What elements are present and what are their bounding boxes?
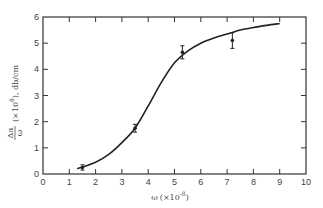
x-tick-label: 5 [172,177,177,187]
fit-curve [77,24,280,169]
y-tick-label: 2 [34,117,39,127]
x-tick-label: 10 [301,177,311,187]
svg-text:ω: ω [15,129,24,136]
axis-ticks [43,17,306,174]
x-tick-label: 7 [225,177,230,187]
y-tick-label: 5 [34,38,39,48]
x-tick-label: 4 [146,177,151,187]
y-tick-label: 1 [34,143,39,153]
y-tick-label: 3 [34,91,39,101]
y-tick-label: 4 [34,64,39,74]
svg-text:ω(×10-8): ω(×10-8) [151,190,189,202]
x-axis-title: ω(×10-8) [151,190,189,202]
y-tick-label: 0 [34,169,39,179]
data-point [80,165,84,170]
x-tick-label: 0 [40,177,45,187]
y-tick-label: 6 [34,12,39,22]
x-tick-labels: 012345678910 [40,177,311,187]
svg-text:(×108), db/cm: (×108), db/cm [8,65,20,122]
chart: 012345678910 0123456 ω(×10-8) Δα ω (×108… [0,0,323,208]
svg-text:Δα: Δα [6,127,15,139]
x-tick-label: 8 [251,177,256,187]
x-tick-label: 9 [277,177,282,187]
x-tick-label: 3 [119,177,124,187]
y-tick-labels: 0123456 [34,12,39,179]
x-tick-label: 2 [93,177,98,187]
plot-frame [43,17,306,174]
y-axis-title: Δα ω (×108), db/cm [6,65,24,140]
x-tick-label: 6 [198,177,203,187]
x-tick-label: 1 [67,177,72,187]
data-point [230,33,234,49]
data-points [80,33,234,170]
